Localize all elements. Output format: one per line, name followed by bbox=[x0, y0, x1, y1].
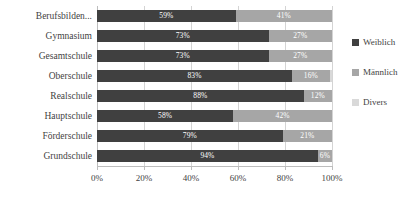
bar-row: 88%12% bbox=[97, 90, 332, 102]
bar-value-label: 88% bbox=[97, 92, 304, 100]
x-tick-label: 0% bbox=[77, 172, 117, 184]
tick-mark-40 bbox=[191, 166, 192, 170]
category-axis-labels: Berufsbilden...GymnasiumGesamtschuleOber… bbox=[0, 6, 92, 166]
bar-row: 79%21% bbox=[97, 130, 332, 142]
category-label: Förderschule bbox=[0, 131, 92, 141]
x-tick-label: 60% bbox=[218, 172, 258, 184]
tick-mark-20 bbox=[144, 166, 145, 170]
legend-item[interactable]: Divers bbox=[352, 96, 418, 126]
bar-row: 59%41% bbox=[97, 10, 332, 22]
x-tick-label: 100% bbox=[312, 172, 352, 184]
x-tick-label: 80% bbox=[265, 172, 305, 184]
bar-row: 73%27% bbox=[97, 50, 332, 62]
legend-label: Divers bbox=[363, 96, 387, 108]
tick-mark-0 bbox=[97, 166, 98, 170]
bar-segment-divers bbox=[330, 70, 332, 82]
legend-swatch-icon bbox=[352, 69, 359, 76]
bar-segment-männlich: 6% bbox=[318, 150, 332, 162]
bar-segment-männlich: 42% bbox=[233, 110, 332, 122]
category-label: Grundschule bbox=[0, 151, 92, 161]
legend: WeiblichMännlichDivers bbox=[352, 36, 418, 126]
bar-value-label: 83% bbox=[97, 72, 292, 80]
x-tick-label: 40% bbox=[171, 172, 211, 184]
tick-mark-60 bbox=[238, 166, 239, 170]
bar-value-label: 59% bbox=[97, 12, 236, 20]
bar-segment-männlich: 21% bbox=[283, 130, 332, 142]
bar-value-label: 94% bbox=[97, 152, 318, 160]
bar-segment-weiblich: 58% bbox=[97, 110, 233, 122]
bar-value-label: 27% bbox=[269, 52, 332, 60]
bar-value-label: 79% bbox=[97, 132, 283, 140]
legend-swatch-icon bbox=[352, 99, 359, 106]
legend-label: Weiblich bbox=[363, 36, 395, 48]
bar-value-label: 21% bbox=[283, 132, 332, 140]
x-tick-label: 20% bbox=[124, 172, 164, 184]
bar-value-label: 12% bbox=[304, 92, 332, 100]
bar-segment-weiblich: 94% bbox=[97, 150, 318, 162]
bar-segment-männlich: 16% bbox=[292, 70, 330, 82]
bar-segment-männlich: 27% bbox=[269, 50, 332, 62]
tick-mark-80 bbox=[285, 166, 286, 170]
tick-mark-100 bbox=[332, 166, 333, 170]
bar-value-label: 58% bbox=[97, 112, 233, 120]
category-label: Realschule bbox=[0, 91, 92, 101]
bar-value-label: 73% bbox=[97, 52, 269, 60]
bar-value-label: 42% bbox=[233, 112, 332, 120]
bar-value-label: 73% bbox=[97, 32, 269, 40]
bar-segment-weiblich: 73% bbox=[97, 30, 269, 42]
bar-value-label: 16% bbox=[292, 72, 330, 80]
category-label: Oberschule bbox=[0, 71, 92, 81]
bar-segment-weiblich: 88% bbox=[97, 90, 304, 102]
legend-item[interactable]: Weiblich bbox=[352, 36, 418, 66]
x-axis-line bbox=[97, 166, 333, 167]
x-axis-tick-labels: 0%20%40%60%80%100% bbox=[0, 172, 420, 188]
bar-row: 73%27% bbox=[97, 30, 332, 42]
category-label: Hauptschule bbox=[0, 111, 92, 121]
legend-label: Männlich bbox=[363, 66, 398, 78]
bar-segment-männlich: 27% bbox=[269, 30, 332, 42]
bar-segment-männlich: 12% bbox=[304, 90, 332, 102]
category-label: Gymnasium bbox=[0, 31, 92, 41]
plot-area: 59%41%73%27%73%27%83%16%88%12%58%42%79%2… bbox=[97, 6, 332, 166]
gridline-100 bbox=[332, 6, 333, 166]
bar-row: 58%42% bbox=[97, 110, 332, 122]
bar-segment-männlich: 41% bbox=[236, 10, 332, 22]
bar-segment-weiblich: 79% bbox=[97, 130, 283, 142]
bar-segment-weiblich: 73% bbox=[97, 50, 269, 62]
bar-value-label: 27% bbox=[269, 32, 332, 40]
bar-segment-weiblich: 83% bbox=[97, 70, 292, 82]
bar-value-label: 41% bbox=[236, 12, 332, 20]
legend-swatch-icon bbox=[352, 39, 359, 46]
bar-segment-weiblich: 59% bbox=[97, 10, 236, 22]
category-label: Berufsbilden... bbox=[0, 11, 92, 21]
bar-value-label: 6% bbox=[318, 152, 332, 160]
bar-row: 83%16% bbox=[97, 70, 332, 82]
legend-item[interactable]: Männlich bbox=[352, 66, 418, 96]
stacked-bar-chart: Berufsbilden...GymnasiumGesamtschuleOber… bbox=[0, 0, 420, 205]
category-label: Gesamtschule bbox=[0, 51, 92, 61]
bar-row: 94%6% bbox=[97, 150, 332, 162]
